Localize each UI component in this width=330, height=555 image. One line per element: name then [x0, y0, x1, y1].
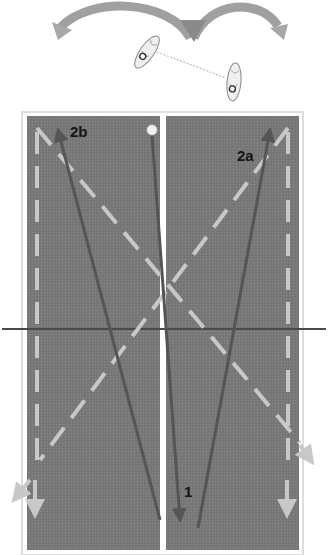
court-surface-left: [27, 116, 160, 550]
ball-start-marker: [147, 125, 157, 135]
swing-left-arrow: [60, 6, 190, 38]
shoe-right-icon: [225, 62, 242, 101]
court: [2, 112, 326, 555]
swing-right-arrowhead: [270, 24, 288, 40]
label-2a: 2a: [237, 147, 254, 164]
court-diagram: 2b 2a 1: [0, 0, 330, 555]
player-shoes: [130, 32, 242, 101]
player-connector-dotted: [157, 52, 226, 78]
swing-arrows: [52, 6, 288, 42]
label-1: 1: [184, 483, 192, 500]
swing-right-arrow: [194, 7, 278, 38]
label-2b: 2b: [70, 123, 88, 140]
